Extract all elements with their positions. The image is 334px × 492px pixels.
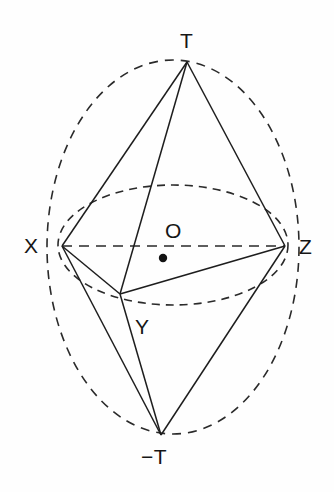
label-T: T	[180, 30, 193, 51]
label-Z: Z	[299, 236, 312, 257]
label-O: O	[165, 220, 182, 241]
label-Y: Y	[135, 316, 150, 337]
equator-ellipse	[58, 185, 288, 305]
label-X: X	[24, 235, 39, 256]
edge-T-Z	[187, 62, 285, 246]
center-point-dot	[159, 254, 167, 262]
outer-sphere-outline	[47, 60, 299, 434]
edge-X-negT	[62, 246, 161, 435]
edge-Y-Z	[120, 246, 285, 294]
label-negative-T: −T	[141, 446, 167, 467]
figure-root: T X Z Y O −T	[0, 0, 334, 492]
edge-T-Y	[120, 62, 187, 294]
edge-Z-negT	[161, 246, 285, 435]
geometry-diagram	[0, 0, 334, 492]
